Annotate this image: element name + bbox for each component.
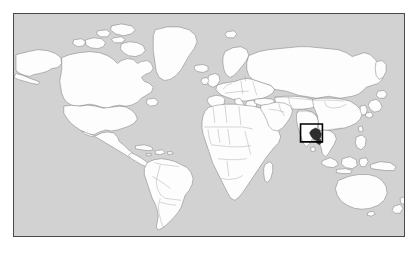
scandinavia — [223, 47, 249, 78]
japan-honshu — [368, 99, 382, 112]
newfoundland — [146, 98, 158, 106]
country-mexico — [82, 131, 134, 158]
sulawesi — [359, 158, 368, 167]
japan-kyushu — [365, 112, 373, 118]
philippines — [355, 135, 366, 150]
java — [336, 169, 352, 174]
country-united-states — [64, 105, 138, 135]
country-alaska — [16, 50, 62, 77]
iceland — [194, 65, 208, 73]
map-frame — [13, 13, 405, 237]
baffin-island — [120, 42, 145, 57]
ellesmere-island — [111, 24, 136, 36]
cuba — [135, 145, 153, 151]
sumatra — [321, 158, 338, 168]
new-guinea — [370, 162, 396, 171]
japan-hokkaido — [376, 90, 387, 98]
victoria-island — [86, 38, 106, 49]
new-zealand-north — [400, 196, 404, 204]
arctic-island-a — [97, 30, 111, 37]
region-north-america — [14, 24, 173, 167]
country-australia — [335, 175, 387, 210]
map-page — [0, 0, 418, 254]
hispaniola — [155, 150, 165, 155]
jamaica — [146, 154, 151, 156]
madagascar — [264, 162, 273, 183]
country-china — [312, 98, 362, 132]
taiwan — [358, 126, 363, 132]
borneo — [341, 157, 357, 169]
region-asia — [247, 47, 396, 174]
banks-island — [73, 39, 86, 47]
sri-lanka — [310, 147, 315, 152]
kamchatka — [375, 61, 386, 80]
country-canada — [60, 52, 154, 108]
south-america-landmass — [144, 159, 193, 230]
region-south-america — [144, 159, 193, 230]
new-zealand-south — [392, 204, 403, 213]
tasmania — [367, 211, 375, 216]
world-map[interactable] — [14, 14, 404, 236]
region-oceania — [335, 175, 404, 217]
arctic-island-b — [112, 37, 126, 43]
puerto-rico — [167, 152, 173, 155]
greenland — [153, 27, 197, 81]
svalbard — [225, 31, 237, 38]
